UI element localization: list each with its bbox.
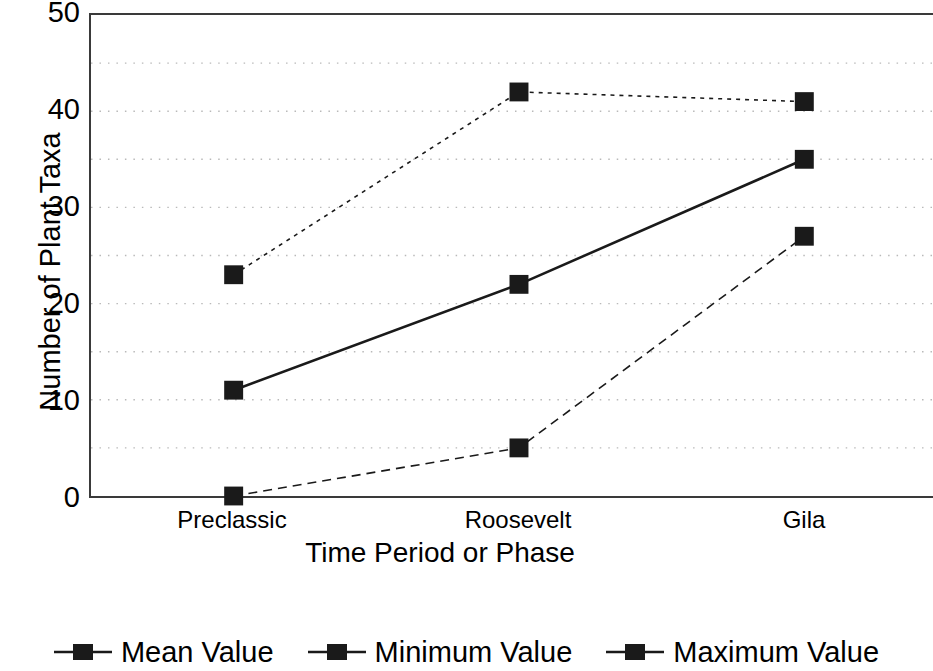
data-point-marker <box>510 83 529 102</box>
series-maximum-value <box>224 83 814 285</box>
y-axis-tick-labels: 50403020100 <box>16 0 80 671</box>
data-point-marker <box>510 275 529 294</box>
legend-item: Minimum Value <box>308 638 573 667</box>
legend-marker-icon <box>54 642 112 662</box>
data-point-marker <box>795 92 814 111</box>
x-tick-label: Gila <box>783 506 826 534</box>
data-point-marker <box>510 438 529 457</box>
legend-marker-icon <box>606 642 664 662</box>
series-mean-value <box>224 150 814 400</box>
data-point-marker <box>795 150 814 169</box>
legend-label: Mean Value <box>121 638 274 667</box>
y-tick-label: 50 <box>20 0 80 27</box>
data-point-marker <box>224 265 243 284</box>
data-point-marker <box>224 381 243 400</box>
x-tick-label: Preclassic <box>177 506 286 534</box>
y-tick-label: 20 <box>20 289 80 318</box>
legend-item: Maximum Value <box>606 638 879 667</box>
series-minimum-value <box>224 227 814 506</box>
legend-marker-icon <box>308 642 366 662</box>
legend-label: Maximum Value <box>673 638 879 667</box>
chart-legend: Mean ValueMinimum ValueMaximum Value <box>0 632 933 671</box>
plot-area <box>89 13 933 498</box>
series-line <box>234 92 805 275</box>
y-tick-label: 10 <box>20 386 80 415</box>
y-tick-label: 40 <box>20 95 80 124</box>
chart-figure: Number of Plant Taxa 50403020100 Preclas… <box>0 0 933 671</box>
series-line <box>234 159 805 390</box>
y-tick-label: 30 <box>20 192 80 221</box>
legend-item: Mean Value <box>54 638 274 667</box>
data-series-layer <box>91 15 933 496</box>
x-axis-title: Time Period or Phase <box>0 537 880 569</box>
legend-label: Minimum Value <box>375 638 573 667</box>
data-point-marker <box>795 227 814 246</box>
y-tick-label: 0 <box>20 483 80 512</box>
data-point-marker <box>224 487 243 506</box>
x-tick-label: Roosevelt <box>465 506 572 534</box>
